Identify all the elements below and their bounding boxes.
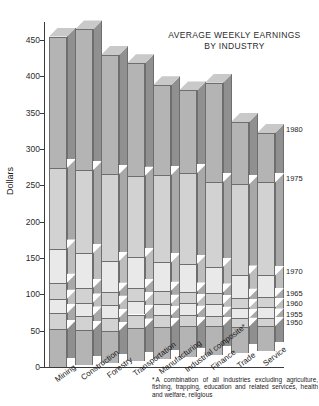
bar-segment-1980	[153, 85, 171, 175]
bar-segment-side-1970	[93, 244, 102, 279]
bar-segment-side-1960	[249, 299, 258, 309]
footnote-line-1: A combination of all industries excludin…	[156, 376, 282, 383]
bar-segment-1955	[153, 315, 171, 327]
bar-segment-side-1955	[171, 306, 180, 318]
bar-segment-side-1980	[93, 20, 102, 161]
bar-service[interactable]	[257, 124, 284, 351]
bar-segment-side-1980	[223, 74, 232, 174]
bar-segment-side-1975	[249, 175, 258, 265]
bar-segment-1950	[49, 329, 67, 367]
bar-segment-1980	[101, 55, 119, 174]
bar-segment-1970	[231, 275, 249, 298]
bar-segment-1980	[49, 37, 67, 168]
bar-segment-side-1975	[93, 161, 102, 244]
bar-segment-1960	[127, 301, 145, 314]
bar-manufacturing[interactable]	[153, 76, 180, 359]
bar-segment-1980	[231, 122, 249, 184]
year-label-1970: 1970	[286, 267, 303, 276]
bar-segment-1975	[179, 173, 197, 264]
bar-segment-side-1960	[223, 295, 232, 307]
bar-segment-side-1975	[67, 159, 76, 240]
bar-segment-1960	[75, 303, 93, 316]
bar-segment-side-1965	[145, 279, 154, 292]
bar-segment-side-1955	[223, 307, 232, 317]
year-label-1965: 1965	[286, 289, 303, 298]
bar-segment-1960	[101, 305, 119, 318]
bar-segment-1975	[231, 184, 249, 274]
bar-segment-1960	[49, 299, 67, 314]
bar-segment-1955	[257, 318, 275, 327]
bar-segment-side-1960	[171, 295, 180, 307]
bar-segment-1955	[127, 315, 145, 328]
bar-segment-side-1955	[119, 309, 128, 322]
bar-segment-1965	[205, 293, 223, 305]
bar-segment-side-1965	[197, 283, 206, 295]
bar-segment-side-1960	[67, 290, 76, 305]
bar-segment-1965	[231, 298, 249, 308]
bar-segment-1975	[49, 168, 67, 249]
bar-segment-side-1980	[249, 113, 258, 175]
bar-segment-side-1975	[145, 167, 154, 248]
bar-segment-side-1965	[249, 289, 258, 299]
bar-industrialcomposite[interactable]	[179, 81, 206, 357]
bar-segment-side-1960	[93, 294, 102, 307]
bar-series-group	[0, 0, 319, 406]
bar-segment-1965	[179, 292, 197, 304]
bar-segment-1970	[153, 262, 171, 290]
bar-segment-side-1970	[275, 266, 284, 288]
footnote-marker: *	[152, 376, 155, 383]
bar-segment-1965	[49, 283, 67, 299]
bar-finance[interactable]	[205, 74, 232, 355]
bar-segment-1955	[75, 316, 93, 331]
bar-segment-side-1970	[223, 258, 232, 283]
bar-segment-1970	[49, 249, 67, 283]
bar-segment-side-1975	[197, 164, 206, 255]
bar-segment-side-1970	[119, 252, 128, 283]
bar-segment-side-1955	[67, 304, 76, 320]
bar-segment-1965	[127, 288, 145, 301]
bar-segment-1950	[75, 330, 93, 365]
bar-segment-1980	[127, 63, 145, 176]
bar-segment-side-1950	[249, 318, 258, 344]
bar-segment-1975	[205, 182, 223, 267]
bar-segment-side-1980	[197, 81, 206, 164]
bar-segment-side-1975	[119, 165, 128, 252]
bar-forestry[interactable]	[101, 46, 128, 363]
bar-segment-side-1980	[119, 46, 128, 165]
bar-segment-side-1960	[197, 294, 206, 306]
bar-segment-1970	[257, 275, 275, 297]
year-label-1950: 1950	[286, 318, 303, 327]
bar-segment-1970	[205, 267, 223, 292]
bar-segment-side-1970	[197, 255, 206, 283]
bar-segment-side-1950	[119, 322, 128, 354]
bar-segment-1960	[257, 307, 275, 317]
bar-segment-1955	[49, 313, 67, 329]
bar-segment-side-1980	[171, 76, 180, 166]
bar-segment-side-1955	[145, 306, 154, 319]
bar-transportation[interactable]	[127, 54, 154, 361]
footnote: *A combination of all industries excludi…	[152, 376, 318, 398]
bar-segment-1970	[179, 264, 197, 292]
year-label-1975: 1975	[286, 174, 303, 183]
bar-segment-1980	[179, 90, 197, 173]
year-label-1960: 1960	[286, 299, 303, 308]
bar-segment-1960	[231, 308, 249, 318]
bar-segment-side-1965	[67, 274, 76, 290]
bar-segment-side-1950	[93, 321, 102, 356]
bar-segment-1975	[101, 174, 119, 261]
year-label-1955: 1955	[286, 310, 303, 319]
bar-segment-1970	[75, 253, 93, 288]
bar-segment-1960	[153, 304, 171, 316]
bar-construction[interactable]	[75, 20, 102, 365]
bar-trade[interactable]	[231, 113, 258, 353]
bar-segment-side-1955	[197, 306, 206, 318]
bar-segment-side-1970	[171, 253, 180, 281]
bar-segment-side-1970	[145, 248, 154, 279]
bar-mining[interactable]	[49, 28, 76, 367]
bar-segment-1965	[75, 288, 93, 303]
bar-segment-side-1955	[275, 309, 284, 318]
bar-segment-side-1975	[275, 173, 284, 266]
chart-root: AVERAGE WEEKLY EARNINGS BY INDUSTRY 0501…	[0, 0, 319, 406]
bar-segment-side-1965	[275, 288, 284, 298]
bar-segment-1975	[75, 170, 93, 253]
